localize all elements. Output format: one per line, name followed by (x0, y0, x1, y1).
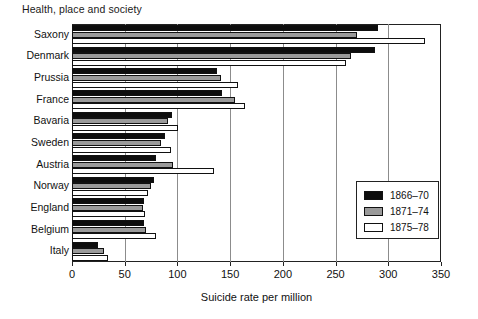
bar-group (72, 47, 441, 66)
legend-item: 1875–78 (364, 220, 429, 234)
bar (72, 248, 104, 254)
bar (72, 68, 217, 74)
legend-label: 1875–78 (390, 222, 429, 233)
bar (72, 60, 346, 66)
category-label: Saxony (3, 28, 69, 40)
legend-item: 1871–74 (364, 204, 429, 218)
bar (72, 47, 375, 53)
bar-group (72, 155, 441, 174)
x-axis-tick (72, 262, 73, 266)
category-label: Austria (3, 158, 69, 170)
bar (72, 147, 171, 153)
bar (72, 155, 156, 161)
category-label: Denmark (3, 49, 69, 61)
bar (72, 227, 146, 233)
bar (72, 103, 245, 109)
legend-label: 1866–70 (390, 190, 429, 201)
bar (72, 90, 222, 96)
bar (72, 183, 151, 189)
bar (72, 211, 145, 217)
x-axis-tick (125, 262, 126, 266)
category-label: England (3, 201, 69, 213)
x-axis-tick-label: 100 (168, 268, 186, 280)
bar (72, 82, 238, 88)
bar (72, 38, 425, 44)
category-label: Italy (3, 244, 69, 256)
bar (72, 75, 221, 81)
x-axis-tick-label: 0 (69, 268, 75, 280)
bar (72, 53, 351, 59)
category-label: France (3, 93, 69, 105)
bar (72, 97, 235, 103)
category-label: Norway (3, 179, 69, 191)
bar-group (72, 25, 441, 44)
legend-item: 1866–70 (364, 188, 429, 202)
x-axis-tick (230, 262, 231, 266)
bar (72, 133, 165, 139)
bar (72, 220, 144, 226)
suicide-rate-bar-chart: SaxonyDenmarkPrussiaFranceBavariaSwedenA… (0, 0, 478, 319)
x-axis-tick-label: 50 (119, 268, 131, 280)
bar (72, 190, 148, 196)
legend-label: 1871–74 (390, 206, 429, 217)
bar (72, 32, 357, 38)
bar (72, 242, 98, 248)
category-label: Bavaria (3, 114, 69, 126)
legend-swatch-icon (364, 191, 383, 200)
x-axis-tick (441, 262, 442, 266)
x-axis-tick-label: 350 (432, 268, 450, 280)
legend-swatch-icon (364, 207, 383, 216)
x-axis-tick-label: 250 (326, 268, 344, 280)
bar-group (72, 242, 441, 261)
category-label: Belgium (3, 223, 69, 235)
bar (72, 140, 161, 146)
legend-swatch-icon (364, 223, 383, 232)
category-axis-labels: SaxonyDenmarkPrussiaFranceBavariaSwedenA… (0, 24, 69, 262)
x-axis-tick (283, 262, 284, 266)
bar-group (72, 90, 441, 109)
x-axis-tick (177, 262, 178, 266)
bar (72, 205, 143, 211)
category-label: Prussia (3, 71, 69, 83)
bar (72, 198, 144, 204)
x-axis-tick (388, 262, 389, 266)
x-axis-tick-label: 150 (221, 268, 239, 280)
bar (72, 118, 168, 124)
bar (72, 162, 173, 168)
bar-group (72, 68, 441, 87)
x-axis-title: Suicide rate per million (72, 291, 441, 303)
chart-legend: 1866–701871–741875–78 (356, 181, 439, 239)
bar (72, 255, 108, 261)
bar (72, 112, 172, 118)
bar (72, 125, 178, 131)
bar (72, 168, 214, 174)
bar-group (72, 112, 441, 131)
x-axis-tick-label: 200 (274, 268, 292, 280)
x-axis-tick (336, 262, 337, 266)
category-label: Sweden (3, 136, 69, 148)
bar (72, 25, 378, 31)
x-axis: 050100150200250300350 (72, 262, 441, 286)
bar (72, 233, 156, 239)
x-axis-tick-label: 300 (379, 268, 397, 280)
bar (72, 177, 154, 183)
bar-group (72, 133, 441, 152)
